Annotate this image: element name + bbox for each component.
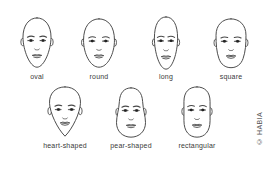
face-label-square: square (201, 73, 261, 81)
pear-shaped-face-illustration (109, 84, 153, 142)
face-label-pear-shaped: pear-shaped (101, 142, 161, 150)
face-cell-rectangular: rectangular (167, 84, 227, 150)
face-label-rectangular: rectangular (167, 142, 227, 150)
face-shapes-diagram: oval round long square heart-shaped pear… (0, 0, 265, 169)
face-cell-pear-shaped: pear-shaped (101, 84, 161, 150)
face-cell-oval: oval (7, 15, 67, 81)
face-cell-square: square (201, 15, 261, 81)
face-label-heart-shaped: heart-shaped (35, 142, 95, 150)
rectangular-face-illustration (175, 84, 219, 142)
square-face-illustration (209, 15, 253, 73)
oval-face-illustration (15, 15, 59, 73)
face-cell-round: round (69, 15, 129, 81)
long-face-illustration (144, 15, 188, 73)
round-face-illustration (77, 15, 121, 73)
face-label-oval: oval (7, 73, 67, 81)
copyright-credit: © HABIA (256, 112, 263, 145)
face-cell-heart-shaped: heart-shaped (35, 84, 95, 150)
face-label-long: long (136, 73, 196, 81)
face-cell-long: long (136, 15, 196, 81)
face-label-round: round (69, 73, 129, 81)
heart-shaped-face-illustration (43, 84, 87, 142)
